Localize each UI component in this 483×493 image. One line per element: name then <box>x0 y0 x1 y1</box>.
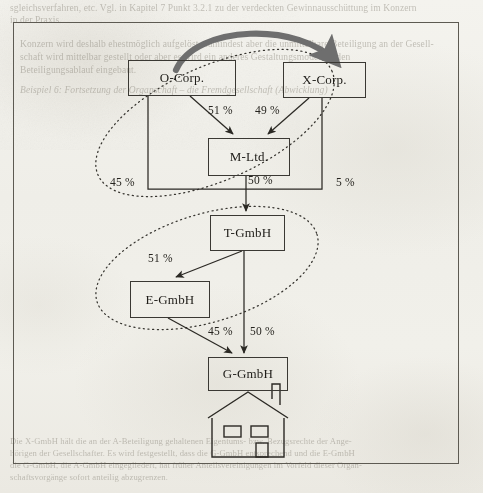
node-m-ltd[interactable]: M-Ltd. <box>208 138 290 176</box>
node-x-corp[interactable]: X-Corp. <box>283 62 366 98</box>
node-label-x-corp: X-Corp. <box>302 72 346 88</box>
node-label-g-gmbh: G-GmbH <box>223 366 273 382</box>
edge-label-t-gmbh-g-gmbh: 50 % <box>250 325 275 337</box>
node-g-gmbh[interactable]: G-GmbH <box>208 357 288 391</box>
edge-label-e-gmbh-g-gmbh: 45 % <box>208 325 233 337</box>
grouping-ellipse-lower <box>81 183 333 354</box>
house-icon <box>208 384 288 457</box>
node-label-t-gmbh: T-GmbH <box>224 225 272 241</box>
edge-t-gmbh-to-e-gmbh <box>176 251 242 277</box>
node-o-corp[interactable]: O-Corp. <box>128 60 236 96</box>
node-label-e-gmbh: E-GmbH <box>146 292 195 308</box>
edge-label-o-corp-t-gmbh: 45 % <box>110 176 135 188</box>
edge-label-m-ltd-t-gmbh: 50 % <box>248 174 273 186</box>
edge-label-t-gmbh-e-gmbh: 51 % <box>148 252 173 264</box>
edge-label-o-corp-m-ltd: 51 % <box>208 104 233 116</box>
node-label-m-ltd: M-Ltd. <box>230 149 268 165</box>
node-t-gmbh[interactable]: T-GmbH <box>210 215 285 251</box>
edge-label-x-corp-t-gmbh: 5 % <box>336 176 355 188</box>
edge-label-x-corp-m-ltd: 49 % <box>255 104 280 116</box>
node-label-o-corp: O-Corp. <box>160 70 204 86</box>
node-e-gmbh[interactable]: E-GmbH <box>130 281 210 318</box>
grouping-ellipse-upper <box>75 19 355 227</box>
